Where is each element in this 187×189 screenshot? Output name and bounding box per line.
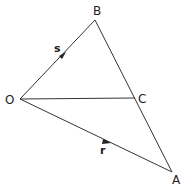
vector-triangle-diagram: B C O A s r (0, 0, 187, 189)
segment-OC (20, 98, 135, 99)
segment-OB (20, 20, 95, 99)
point-label-B: B (93, 4, 101, 18)
point-label-C: C (138, 92, 146, 106)
segment-OA (20, 99, 172, 172)
segment-BA (95, 20, 172, 172)
point-label-A: A (172, 173, 181, 187)
point-label-O: O (5, 93, 14, 107)
vector-label-r: r (100, 144, 106, 157)
vector-label-s: s (54, 42, 61, 55)
